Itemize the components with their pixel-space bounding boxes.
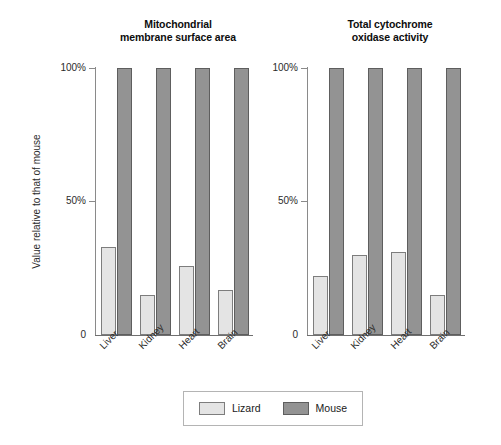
legend-item-mouse[interactable]: Mouse [283,402,348,415]
legend-swatch-lizard-icon [199,402,225,415]
y-axis-label: Value relative to that of mouse [31,82,42,322]
legend-swatch-mouse-icon [283,402,309,415]
bar-group-brain-right [427,68,465,335]
bar-lizard-kidney-right[interactable] [352,255,367,335]
y-ticklabel-50-left: 50% [46,196,86,206]
bar-mouse-brain-left[interactable] [234,68,249,335]
bar-lizard-heart-left[interactable] [179,266,194,335]
bar-mouse-brain-right[interactable] [446,68,461,335]
bar-mouse-heart-right[interactable] [407,68,422,335]
bar-mouse-heart-left[interactable] [195,68,210,335]
bar-group-heart-left [176,68,214,335]
y-tick-100-right [301,68,308,69]
panel-mitochondrial-membrane-surface-area: 100% 50% 0 Liver Kidney Heart [60,0,260,445]
bar-lizard-heart-right[interactable] [391,252,406,335]
bar-group-liver-right [310,68,348,335]
bar-mouse-kidney-left[interactable] [156,68,171,335]
y-ticklabel-100-left: 100% [46,63,86,73]
bar-lizard-liver-right[interactable] [313,276,328,335]
bar-group-heart-right [388,68,426,335]
legend-label-mouse: Mouse [316,403,348,414]
y-tick-50-left [89,201,96,202]
y-ticklabel-50-right: 50% [258,196,298,206]
chart-figure: Value relative to that of mouse Mitochon… [0,0,501,445]
legend-item-lizard[interactable]: Lizard [199,402,261,415]
y-tick-100-left [89,68,96,69]
bar-group-kidney-right [349,68,387,335]
bar-mouse-kidney-right[interactable] [368,68,383,335]
legend-label-lizard: Lizard [232,403,261,414]
bar-lizard-liver-left[interactable] [101,247,116,335]
bars-right [308,68,466,335]
bar-mouse-liver-left[interactable] [117,68,132,335]
panel-total-cytochrome-oxidase-activity: 100% 50% 0 Liver Kidney Heart [272,0,472,445]
bars-left [96,68,254,335]
chart-legend: Lizard Mouse [183,391,363,426]
x-axis-labels-left: Liver Kidney Heart Brain [96,336,256,386]
y-tick-50-right [301,201,308,202]
bar-group-brain-left [215,68,253,335]
bar-group-liver-left [98,68,136,335]
y-ticklabel-0-right: 0 [258,330,298,340]
y-ticklabel-100-right: 100% [258,63,298,73]
x-axis-labels-right: Liver Kidney Heart Brain [308,336,468,386]
bar-mouse-liver-right[interactable] [329,68,344,335]
y-ticklabel-0-left: 0 [46,330,86,340]
bar-group-kidney-left [137,68,175,335]
